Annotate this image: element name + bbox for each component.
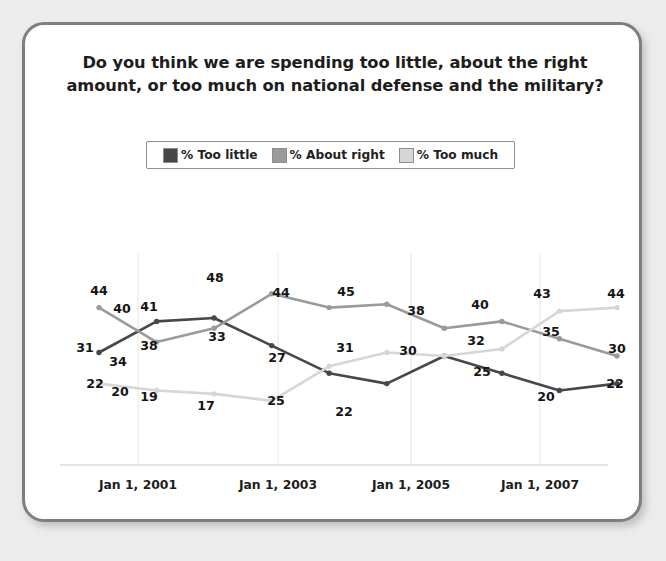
x-axis-tick-1: Jan 1, 2003: [239, 477, 317, 492]
data-label: 33: [208, 329, 226, 344]
line-chart-plot: Jan 1, 2001Jan 1, 2003Jan 1, 2005Jan 1, …: [25, 25, 645, 525]
data-label: 22: [86, 376, 104, 391]
x-axis-tick-3: Jan 1, 2007: [501, 477, 579, 492]
data-label: 38: [140, 338, 158, 353]
data-label: 25: [267, 393, 285, 408]
data-label: 44: [272, 285, 290, 300]
data-label: 40: [471, 297, 489, 312]
data-label: 35: [542, 324, 560, 339]
x-axis-tick-0: Jan 1, 2001: [99, 477, 177, 492]
data-label: 30: [399, 343, 417, 358]
data-label: 19: [140, 389, 158, 404]
chart-card: Do you think we are spending too little,…: [22, 22, 642, 522]
data-label: 38: [407, 303, 425, 318]
data-label: 20: [537, 389, 555, 404]
data-label: 44: [90, 283, 108, 298]
data-label: 41: [140, 299, 158, 314]
data-label: 22: [606, 376, 624, 391]
data-label: 32: [467, 333, 485, 348]
data-label: 25: [473, 364, 491, 379]
data-label: 43: [533, 286, 551, 301]
data-label: 30: [608, 341, 626, 356]
data-label: 44: [607, 286, 625, 301]
data-label: 22: [335, 404, 353, 419]
data-label: 45: [337, 284, 355, 299]
chart-svg: [25, 25, 645, 525]
data-label: 48: [206, 270, 224, 285]
data-label: 20: [111, 384, 129, 399]
data-label: 31: [76, 340, 94, 355]
data-label: 40: [113, 301, 131, 316]
data-label: 27: [268, 350, 286, 365]
data-label: 34: [109, 354, 127, 369]
data-label: 17: [197, 398, 215, 413]
data-label: 31: [336, 340, 354, 355]
x-axis-tick-2: Jan 1, 2005: [372, 477, 450, 492]
